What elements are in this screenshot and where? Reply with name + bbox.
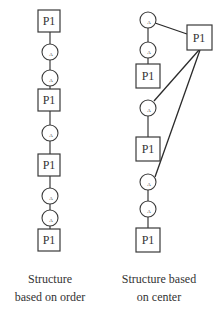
process-node: P1 [136,64,160,88]
svg-text:A: A [147,108,151,113]
svg-text:A: A [147,20,151,25]
caption-line: Structure based [100,270,218,288]
activity-node: A [42,188,58,204]
svg-text:P1: P1 [142,142,155,156]
svg-text:A: A [147,209,151,214]
caption-line: on center [100,288,218,306]
hub-connector [155,23,187,34]
activity-node: A [140,201,156,217]
svg-text:P1: P1 [43,158,56,172]
svg-text:P1: P1 [43,93,56,107]
activity-node: A [140,42,156,58]
hub-connector [154,50,199,101]
svg-text:A: A [147,50,151,55]
svg-text:A: A [49,133,53,138]
activity-node: A [42,70,58,86]
structure-diagram: P1 A A P1 A P1 A A [0,0,218,312]
caption-center-structure: Structure based on center [100,270,218,306]
caption-order-structure: Structure based on order [0,270,100,306]
order-structure: P1 A A P1 A P1 A A [38,10,60,251]
hub-connector [155,50,200,177]
svg-text:P1: P1 [43,14,56,28]
caption-line: based on order [0,288,100,306]
svg-text:A: A [49,196,53,201]
activity-node: A [42,44,58,60]
process-node: P1 [38,154,60,176]
svg-text:P1: P1 [43,233,56,247]
process-node: P1 [136,228,160,252]
svg-text:A: A [49,218,53,223]
activity-node: A [42,210,58,226]
svg-text:P1: P1 [142,69,155,83]
svg-text:A: A [49,52,53,57]
svg-text:A: A [49,78,53,83]
svg-text:P1: P1 [142,233,155,247]
svg-text:A: A [147,182,151,187]
activity-node: A [42,125,58,141]
process-node: P1 [136,137,160,161]
activity-node: A [140,100,156,116]
center-structure: A P1 A P1 A P1 A [136,12,212,252]
svg-text:P1: P1 [193,31,206,45]
process-node: P1 [38,229,60,251]
activity-node: A [140,174,156,190]
process-node: P1 [38,89,60,111]
caption-line: Structure [0,270,100,288]
process-node: P1 [38,10,60,32]
hub-process-node: P1 [187,25,212,50]
activity-node: A [140,12,156,28]
